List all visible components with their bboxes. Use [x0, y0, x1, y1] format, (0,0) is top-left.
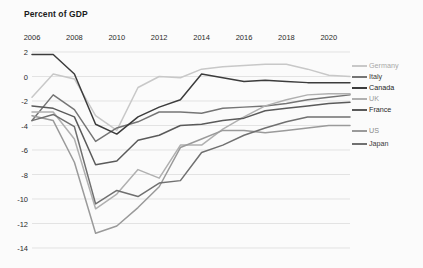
series-line-uk [32, 94, 350, 209]
series-line-canada [32, 54, 350, 134]
y-tick--6: -6 [21, 146, 28, 155]
y-axis-tick-labels: 20-2-4-6-8-10-12-14 [0, 52, 28, 248]
x-tick-2020: 2020 [320, 33, 337, 42]
y-tick-2: 2 [24, 48, 28, 57]
y-tick-0: 0 [24, 72, 28, 81]
series-line-germany [32, 64, 350, 130]
y-tick--4: -4 [21, 121, 28, 130]
legend-swatch-france [352, 109, 367, 111]
legend-label-italy: Italy [369, 73, 382, 80]
x-tick-2008: 2008 [66, 33, 83, 42]
legend-swatch-canada [352, 87, 367, 89]
legend-label-canada: Canada [369, 84, 394, 91]
y-tick--8: -8 [21, 170, 28, 179]
x-axis-tick-labels: 20062008201020122014201620182020 [32, 0, 350, 50]
legend-label-germany: Germany [369, 62, 399, 69]
chart-legend: GermanyItalyCanadaUKFranceUSJapan [352, 55, 423, 160]
gridlines [32, 52, 350, 248]
legend-swatch-japan [352, 143, 367, 145]
series-lines [32, 54, 350, 233]
chart-figure: Percent of GDP 2006200820102012201420162… [0, 0, 423, 268]
legend-label-japan: Japan [369, 140, 389, 147]
y-tick--12: -12 [17, 219, 28, 228]
legend-swatch-us [352, 130, 367, 132]
legend-label-france: France [369, 106, 391, 113]
x-tick-2014: 2014 [193, 33, 210, 42]
y-tick--2: -2 [21, 97, 28, 106]
x-tick-2018: 2018 [278, 33, 295, 42]
x-tick-2012: 2012 [151, 33, 168, 42]
legend-swatch-uk [352, 98, 367, 100]
x-tick-2006: 2006 [24, 33, 41, 42]
legend-label-us: US [369, 127, 379, 134]
legend-swatch-italy [352, 76, 367, 78]
x-tick-2016: 2016 [236, 33, 253, 42]
plot-area [32, 52, 350, 248]
legend-label-uk: UK [369, 95, 379, 102]
legend-swatch-germany [352, 65, 367, 67]
x-tick-2010: 2010 [108, 33, 125, 42]
chart-svg [32, 52, 350, 248]
y-tick--14: -14 [17, 244, 28, 253]
y-tick--10: -10 [17, 195, 28, 204]
